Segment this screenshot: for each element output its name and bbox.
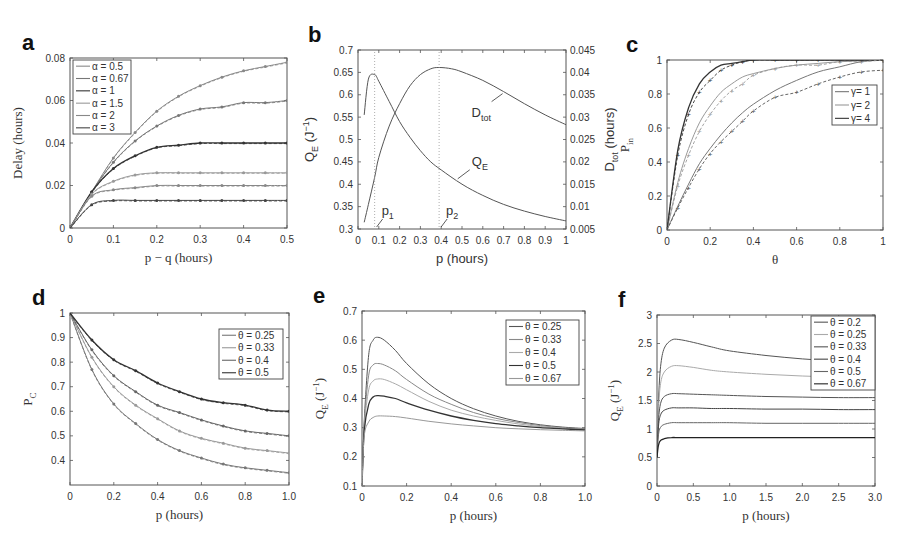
panel-d: d00.20.40.60.81.00.40.50.60.70.80.91p (h… xyxy=(20,285,296,522)
annotation-dtot: Dtot xyxy=(472,105,492,123)
plot-area: ++++++++++++++++++++++++++++++++++++++++… xyxy=(667,56,886,230)
y-tick-label: 0.9 xyxy=(51,332,65,343)
y-right-tick-label: 0.01 xyxy=(570,201,590,212)
x-tick-label: 0.5 xyxy=(280,234,294,245)
x-tick-label: 1.0 xyxy=(578,492,592,503)
x-tick-label: 0 xyxy=(664,236,670,247)
y-right-tick-label: 0.015 xyxy=(570,179,595,190)
svg-text:+: + xyxy=(719,97,724,106)
y-right-tick-label: 0.04 xyxy=(570,67,590,78)
y-right-tick-label: 0.035 xyxy=(570,89,595,100)
x-tick-label: 0 xyxy=(67,234,73,245)
x-tick-label: 0.2 xyxy=(107,491,121,502)
x-axis-label: p (hours) xyxy=(742,508,789,523)
panel-c: c00.20.40.60.8100.20.40.60.81θPin+++++++… xyxy=(617,32,886,267)
svg-text:+: + xyxy=(773,93,778,102)
y-tick-label: 2 xyxy=(646,367,652,378)
y-axis-label: QE (J−1) xyxy=(606,380,625,421)
x-tick-label: 0.3 xyxy=(413,235,427,246)
y-axis-label: QE (J−1) xyxy=(311,378,330,419)
x-tick-label: 0 xyxy=(355,235,361,246)
legend-entry: θ = 0.33 xyxy=(830,341,867,352)
x-tick-label: 1.0 xyxy=(723,492,737,503)
svg-text:+: + xyxy=(686,184,691,193)
y-axis-label: PC xyxy=(20,392,38,405)
y-tick-label: 0.6 xyxy=(343,335,357,346)
x-tick-label: 0.8 xyxy=(533,492,547,503)
legend-entry: α = 0.5 xyxy=(92,61,124,72)
y-tick-label: 0 xyxy=(646,481,652,492)
x-tick-label: 2.0 xyxy=(795,492,809,503)
x-tick-label: 1 xyxy=(563,235,569,246)
series-line xyxy=(362,379,585,486)
y-tick-label: 1 xyxy=(646,424,652,435)
legend-entry: θ = 0.5 xyxy=(830,366,861,377)
x-tick-label: 0 xyxy=(654,492,660,503)
svg-text:+: + xyxy=(686,110,691,119)
panel-letter: d xyxy=(32,285,45,310)
x-tick-label: 0.4 xyxy=(434,235,448,246)
y-tick-label: 0.02 xyxy=(46,180,66,191)
legend-entry: θ = 0.4 xyxy=(525,347,556,358)
y-tick-label: 0.7 xyxy=(339,45,353,56)
legend-entry: θ = 0.33 xyxy=(238,342,275,353)
y-tick-label: 0.5 xyxy=(638,452,652,463)
x-tick-label: 0.7 xyxy=(497,235,511,246)
svg-text:+: + xyxy=(719,66,724,75)
y-right-tick-label: 0.025 xyxy=(570,134,595,145)
panel-letter: c xyxy=(626,32,638,57)
x-tick-label: 0.1 xyxy=(106,234,120,245)
x-tick-label: 0.6 xyxy=(790,236,804,247)
y-right-tick-label: 0.02 xyxy=(570,156,590,167)
svg-text:+: + xyxy=(794,56,799,65)
svg-text:+: + xyxy=(773,65,778,74)
svg-text:+: + xyxy=(859,56,864,65)
legend-entry: θ = 0.25 xyxy=(830,329,867,340)
y-tick-label: 0.4 xyxy=(648,157,662,168)
y-tick-label: 0.04 xyxy=(46,138,66,149)
svg-text:+: + xyxy=(859,68,864,77)
svg-text:+: + xyxy=(675,182,680,191)
annotation-label: p2 xyxy=(446,203,458,221)
svg-text:+: + xyxy=(719,138,724,147)
svg-text:+: + xyxy=(697,127,702,136)
legend-entry: α = 1 xyxy=(92,85,115,96)
svg-text:+: + xyxy=(675,204,680,213)
x-tick-label: 0 xyxy=(359,492,365,503)
y-right-tick-label: 0.03 xyxy=(570,112,590,123)
y-tick-label: 0.1 xyxy=(343,481,357,492)
y-tick-label: 0.6 xyxy=(648,123,662,134)
legend-entry: θ = 0.25 xyxy=(238,330,275,341)
y-tick-label: 0.8 xyxy=(51,357,65,368)
legend-entry: γ= 1 xyxy=(851,86,871,97)
y-tick-label: 0.6 xyxy=(51,406,65,417)
x-tick-label: 3.0 xyxy=(868,492,882,503)
series-line xyxy=(70,200,287,228)
legend-entry: θ = 0.33 xyxy=(525,334,562,345)
plot-area xyxy=(364,68,566,223)
annotation-qe: QE xyxy=(472,154,488,172)
x-tick-label: 1 xyxy=(880,236,886,247)
x-tick-label: 0 xyxy=(67,491,73,502)
svg-text:+: + xyxy=(794,88,799,97)
svg-text:+: + xyxy=(697,165,702,174)
y-tick-label: 0.4 xyxy=(51,455,65,466)
panel-f: f00.51.01.52.02.53.000.511.522.53p (hour… xyxy=(606,287,882,523)
y-tick-label: 3 xyxy=(646,310,652,321)
svg-text:+: + xyxy=(740,80,745,89)
x-axis-label: p (hours) xyxy=(450,508,497,523)
panel-b: b00.10.20.30.40.50.60.70.80.910.30.350.4… xyxy=(301,22,620,266)
y-tick-label: 0.06 xyxy=(46,95,66,106)
y-right-tick-label: 0.045 xyxy=(570,45,595,56)
svg-text:+: + xyxy=(837,73,842,82)
legend-entry: α = 2 xyxy=(92,110,115,121)
x-tick-label: 0.2 xyxy=(400,492,414,503)
legend-entry: θ = 0.4 xyxy=(830,354,861,365)
legend-entry: θ = 0.5 xyxy=(525,360,556,371)
x-tick-label: 0.2 xyxy=(150,234,164,245)
legend-entry: γ= 4 xyxy=(851,113,871,124)
y-tick-label: 1.5 xyxy=(638,395,652,406)
x-tick-label: 0.9 xyxy=(538,235,552,246)
svg-text:+: + xyxy=(751,56,756,65)
panel-a: a00.10.20.30.40.500.020.040.060.08p − q … xyxy=(10,30,294,265)
